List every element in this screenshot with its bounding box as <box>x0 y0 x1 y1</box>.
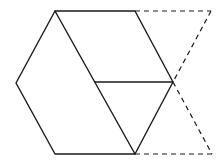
dashed-upper-right-edge <box>173 11 211 82</box>
geometry-diagram <box>0 0 224 164</box>
dashed-lower-right-edge <box>173 82 212 154</box>
